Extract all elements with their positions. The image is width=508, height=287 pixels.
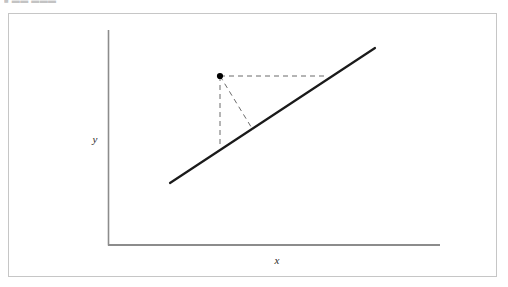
x-axis-label: x	[274, 254, 280, 266]
perpendicular-residual-line	[220, 76, 253, 130]
figure-root: ■ ▬▬ ▬▬▬ y x	[0, 0, 508, 287]
regression-line	[170, 48, 375, 183]
plot-canvas: y x	[0, 0, 508, 287]
data-point-marker	[217, 73, 223, 79]
y-axis-label: y	[92, 133, 98, 145]
